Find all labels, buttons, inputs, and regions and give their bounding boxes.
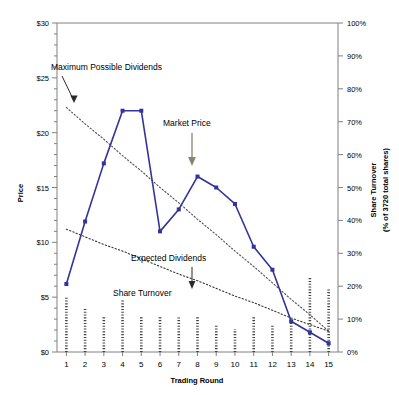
x-axis-tick-label: 7: [177, 360, 182, 369]
chart-container: $0$5$10$15$20$25$30 0%10%20%30%40%50%60%…: [0, 0, 399, 395]
market-price-data-point: [121, 109, 125, 113]
annotation-expected-dividends: Expected Dividends: [131, 253, 206, 289]
market-price-data-point: [139, 109, 143, 113]
y-axis-left-tick-label: $5: [41, 293, 49, 302]
x-axis-tick-label: 6: [158, 360, 163, 369]
y-axis-right-tick-label: 80%: [347, 85, 362, 94]
y-axis-right-tick-label: 90%: [347, 52, 362, 61]
dividends-market-price-chart: $0$5$10$15$20$25$30 0%10%20%30%40%50%60%…: [0, 0, 399, 395]
market-price-data-point: [270, 268, 274, 272]
annotation-label-expected-dividends: Expected Dividends: [131, 253, 206, 263]
y-axis-right-tick-label: 0%: [347, 348, 358, 357]
x-axis-tick-label: 3: [102, 360, 107, 369]
x-axis-title: Trading Round: [171, 376, 224, 385]
y-axis-left-tick-label: $0: [41, 348, 49, 357]
x-axis-tick-label: 13: [287, 360, 296, 369]
market-price-data-point: [327, 341, 331, 345]
y-axis-right-tick-label: 50%: [347, 184, 362, 193]
market-price-data-point: [196, 175, 200, 179]
market-price-data-point: [83, 219, 87, 223]
x-axis-labels: 123456789101112131415: [64, 360, 333, 369]
y-axis-left-tick-label: $25: [36, 74, 49, 83]
annotation-label-share-turnover: Share Turnover: [113, 288, 172, 298]
y-axis-right-tick-label: 20%: [347, 282, 362, 291]
market-price-markers: [64, 109, 330, 345]
market-price-data-point: [64, 282, 68, 286]
x-axis-ticks: [66, 352, 328, 356]
y-axis-left-labels: $0$5$10$15$20$25$30: [36, 19, 49, 357]
x-axis-tick-label: 12: [268, 360, 277, 369]
market-price-data-point: [252, 245, 256, 249]
y-axis-right-title-line2: (% of 3720 total shares): [381, 148, 390, 232]
market-price-data-point: [214, 186, 218, 190]
x-axis-tick-label: 11: [250, 360, 259, 369]
market-price-data-point: [158, 229, 162, 233]
y-axis-left-tick-label: $30: [36, 19, 49, 28]
y-axis-right-tick-label: 40%: [347, 216, 362, 225]
market-price-data-point: [289, 319, 293, 323]
y-axis-right-title-line1: Share Turnover: [369, 162, 378, 217]
y-axis-right-tick-label: 70%: [347, 118, 362, 127]
y-axis-right-tick-label: 30%: [347, 249, 362, 258]
x-axis-tick-label: 8: [195, 360, 200, 369]
y-axis-right-tick-label: 100%: [347, 19, 367, 28]
x-axis-tick-label: 15: [324, 360, 333, 369]
y-axis-right-labels: 0%10%20%30%40%50%60%70%80%90%100%: [347, 19, 367, 357]
y-axis-right-ticks: [338, 23, 343, 352]
annotation-maximum-possible-dividends: Maximum Possible Dividends: [51, 62, 162, 103]
y-axis-right-tick-label: 10%: [347, 315, 362, 324]
max-possible-dividends-trend: [66, 107, 328, 331]
y-axis-right-tick-label: 60%: [347, 151, 362, 160]
x-axis-tick-label: 9: [214, 360, 219, 369]
market-price-data-point: [233, 202, 237, 206]
x-axis-tick-label: 4: [120, 360, 125, 369]
annotation-share-turnover: Share Turnover: [113, 288, 172, 298]
y-axis-left-tick-label: $20: [36, 129, 49, 138]
y-axis-left-tick-label: $15: [36, 184, 49, 193]
annotation-market-price: Market Price: [163, 118, 211, 166]
y-axis-left-ticks: [52, 23, 57, 352]
market-price-polyline: [66, 111, 328, 343]
y-axis-left-tick-label: $10: [36, 238, 49, 247]
x-axis-tick-label: 2: [83, 360, 88, 369]
x-axis-tick-label: 14: [305, 360, 314, 369]
market-price-line: [66, 111, 328, 343]
annotation-label-max-dividends: Maximum Possible Dividends: [51, 62, 162, 72]
annotation-label-market-price: Market Price: [163, 118, 211, 128]
x-axis-tick-label: 5: [139, 360, 144, 369]
x-axis-tick-label: 10: [231, 360, 240, 369]
market-price-data-point: [308, 330, 312, 334]
x-axis-tick-label: 1: [64, 360, 69, 369]
market-price-data-point: [177, 207, 181, 211]
dividend-trend-lines: [66, 107, 328, 331]
y-axis-left-title: Price: [16, 184, 25, 202]
market-price-data-point: [102, 161, 106, 165]
